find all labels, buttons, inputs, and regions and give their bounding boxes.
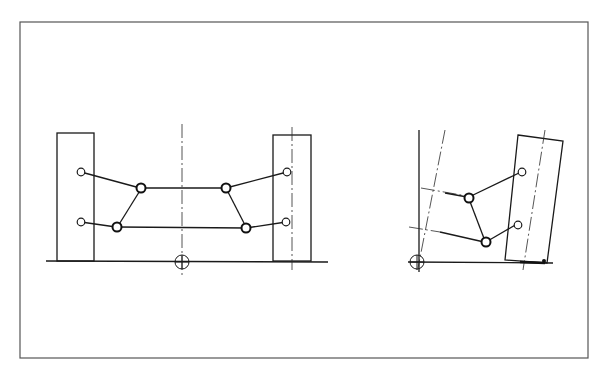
joint (465, 194, 474, 203)
pivot-pin (518, 168, 526, 176)
joint (222, 184, 231, 193)
joint (242, 224, 251, 233)
upper-arm-extension (421, 188, 467, 196)
lower-crossmember (118, 227, 246, 228)
joint (113, 223, 122, 232)
left-wheel (57, 133, 94, 261)
contact-point (542, 259, 546, 263)
front-view-level (46, 124, 328, 278)
diagram-canvas (0, 0, 608, 370)
front-view-roll (408, 130, 563, 272)
upright-link (469, 199, 485, 241)
lower-arm-extension (409, 227, 440, 232)
upper-arm-left (81, 172, 140, 188)
lower-arm (440, 232, 484, 242)
lower-arm-left (81, 222, 116, 227)
pivot-pin (282, 218, 290, 226)
right-upright-link (227, 190, 246, 227)
pivot-pin (77, 218, 85, 226)
pivot-pin (514, 221, 522, 229)
tilted-centerline (418, 130, 445, 268)
tilted-wheel-axis (523, 130, 545, 270)
pivot-pin (77, 168, 85, 176)
left-upright-link (118, 189, 141, 226)
joint (482, 238, 491, 247)
lower-arm-right (246, 222, 286, 228)
joint (137, 184, 146, 193)
roll-center-marker (410, 255, 424, 270)
contact-patch (520, 262, 545, 263)
figure-frame (20, 22, 588, 358)
upper-arm-right (226, 172, 287, 188)
upper-arm (445, 193, 467, 197)
pivot-pin (283, 168, 291, 176)
roll-center-marker (175, 255, 189, 269)
suspension-diagram (0, 0, 608, 370)
